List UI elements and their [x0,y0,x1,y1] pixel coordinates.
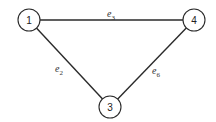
edge-e2 [29,20,110,107]
graph-diagram: e3e2e6 143 [0,0,216,122]
nodes-layer: 143 [18,9,205,118]
node-4: 4 [183,9,205,31]
node-label: 1 [26,15,32,26]
edges-layer: e3e2e6 [29,8,194,107]
edge-label-e6: e6 [152,65,160,79]
node-1: 1 [18,9,40,31]
node-label: 4 [191,15,197,26]
node-label: 3 [107,102,113,113]
edge-e6 [110,20,194,107]
edge-label-e2: e2 [55,63,63,77]
node-3: 3 [99,96,121,118]
